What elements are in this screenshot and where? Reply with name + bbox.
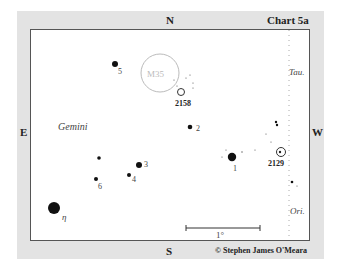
svg-text:6: 6 bbox=[98, 182, 102, 191]
gemini-label: Gemini bbox=[58, 121, 88, 132]
taurus-label: Tau. bbox=[289, 67, 304, 77]
orion-label: Ori. bbox=[290, 206, 305, 216]
svg-text:2: 2 bbox=[196, 124, 200, 133]
svg-text:1: 1 bbox=[233, 164, 237, 173]
star-4-icon bbox=[127, 173, 131, 177]
star-eta-icon bbox=[48, 202, 60, 214]
m35-label: M35 bbox=[147, 69, 165, 79]
svg-text:5: 5 bbox=[118, 67, 122, 76]
svg-text:4: 4 bbox=[132, 175, 136, 184]
star-1-icon bbox=[228, 153, 236, 161]
ngc2158-cluster-icon bbox=[178, 89, 185, 96]
svg-text:η: η bbox=[62, 212, 67, 222]
scale-bar-label: 1° bbox=[216, 230, 225, 240]
star-3-icon bbox=[136, 162, 142, 168]
ngc2158-label: 2158 bbox=[175, 99, 191, 108]
ngc2129-label: 2129 bbox=[268, 159, 284, 168]
star-2-icon bbox=[188, 125, 193, 130]
star-map: M35 2158 2129 5 2 3 4 6 1 η Gemini Tau. … bbox=[0, 0, 342, 276]
svg-text:3: 3 bbox=[144, 160, 148, 169]
star-6-icon bbox=[94, 177, 98, 181]
